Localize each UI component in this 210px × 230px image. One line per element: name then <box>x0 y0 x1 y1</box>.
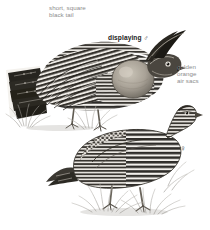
label-golden-orange-air-sacs: golden orange air sacs <box>177 63 199 84</box>
label-short-square-black-tail: short, square black tail <box>49 4 86 18</box>
female-sex-symbol: ♀ <box>180 145 186 153</box>
label-displaying-male: displaying ♂ <box>108 34 149 41</box>
prairie-chicken-artwork <box>0 0 210 230</box>
illustration-plate: short, square black tail displaying ♂ go… <box>0 0 210 230</box>
